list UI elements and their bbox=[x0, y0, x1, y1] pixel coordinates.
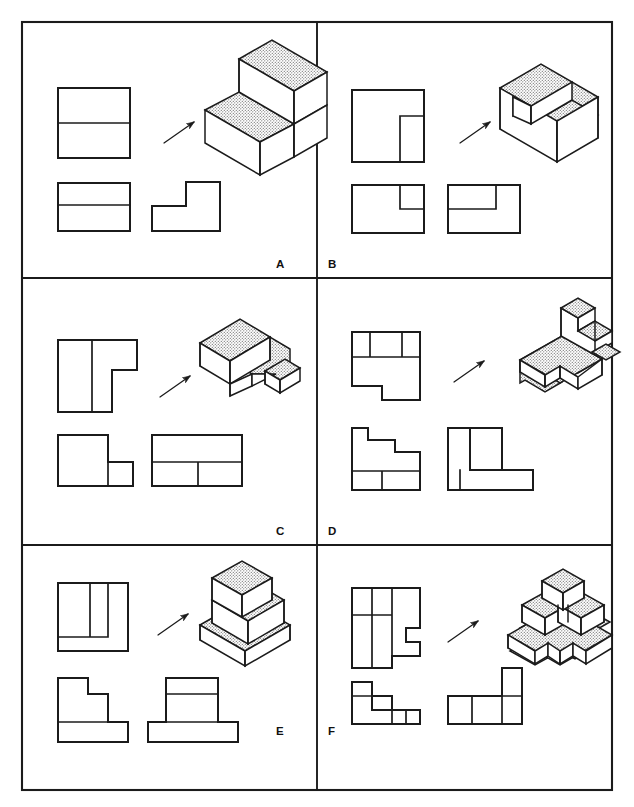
panel-e-isometric bbox=[200, 561, 290, 666]
panel-c-label: C bbox=[276, 525, 285, 537]
panel-d-arrow-icon bbox=[454, 361, 484, 382]
panel-b-front-view bbox=[352, 90, 424, 162]
panel-d-isometric bbox=[520, 298, 620, 392]
panel-f-top-view bbox=[352, 588, 420, 668]
exercise-figure-svg: A bbox=[0, 0, 634, 807]
panel-f-label: F bbox=[328, 725, 335, 737]
panel-f-isometric bbox=[508, 569, 612, 665]
panel-d-front-view bbox=[352, 428, 420, 490]
panel-d-top-view bbox=[352, 332, 420, 400]
panel-e-label: E bbox=[276, 725, 284, 737]
panel-b-top-view bbox=[352, 185, 424, 233]
panel-b-label: B bbox=[328, 258, 337, 270]
panel-a-front-view bbox=[58, 88, 130, 158]
panel-f-arrow-icon bbox=[448, 621, 478, 642]
figure-sheet: A bbox=[0, 0, 634, 807]
panel-d-label: D bbox=[328, 525, 337, 537]
panel-b-side-view bbox=[448, 185, 520, 233]
panel-a-label: A bbox=[276, 258, 285, 270]
panel-a[interactable]: A bbox=[58, 40, 327, 270]
panel-e-arrow-icon bbox=[158, 614, 188, 635]
panel-e-front-view bbox=[58, 678, 128, 742]
panel-d[interactable]: D bbox=[328, 298, 620, 537]
panel-a-top-view bbox=[58, 183, 130, 231]
panel-c-top-view bbox=[58, 435, 133, 486]
panel-d-side-view bbox=[448, 428, 533, 490]
panel-b-isometric bbox=[500, 64, 598, 162]
panel-c-front-view bbox=[58, 340, 137, 412]
panel-c-side-view bbox=[152, 435, 242, 486]
panel-c-arrow-icon bbox=[160, 376, 190, 397]
panel-a-side-view bbox=[152, 182, 220, 231]
panel-b[interactable]: B bbox=[328, 64, 598, 270]
panel-a-arrow-icon bbox=[164, 122, 194, 143]
panel-e[interactable]: E bbox=[58, 561, 290, 742]
panel-a-isometric bbox=[205, 40, 327, 175]
panel-f-side-view bbox=[448, 668, 522, 724]
panel-f-front-view bbox=[352, 682, 420, 724]
panel-b-arrow-icon bbox=[460, 122, 490, 143]
panel-c-isometric bbox=[200, 319, 300, 396]
panel-f[interactable]: F bbox=[328, 569, 612, 737]
panel-e-side-view bbox=[148, 678, 238, 742]
panel-c[interactable]: C bbox=[58, 319, 300, 537]
panel-e-top-view bbox=[58, 583, 128, 651]
